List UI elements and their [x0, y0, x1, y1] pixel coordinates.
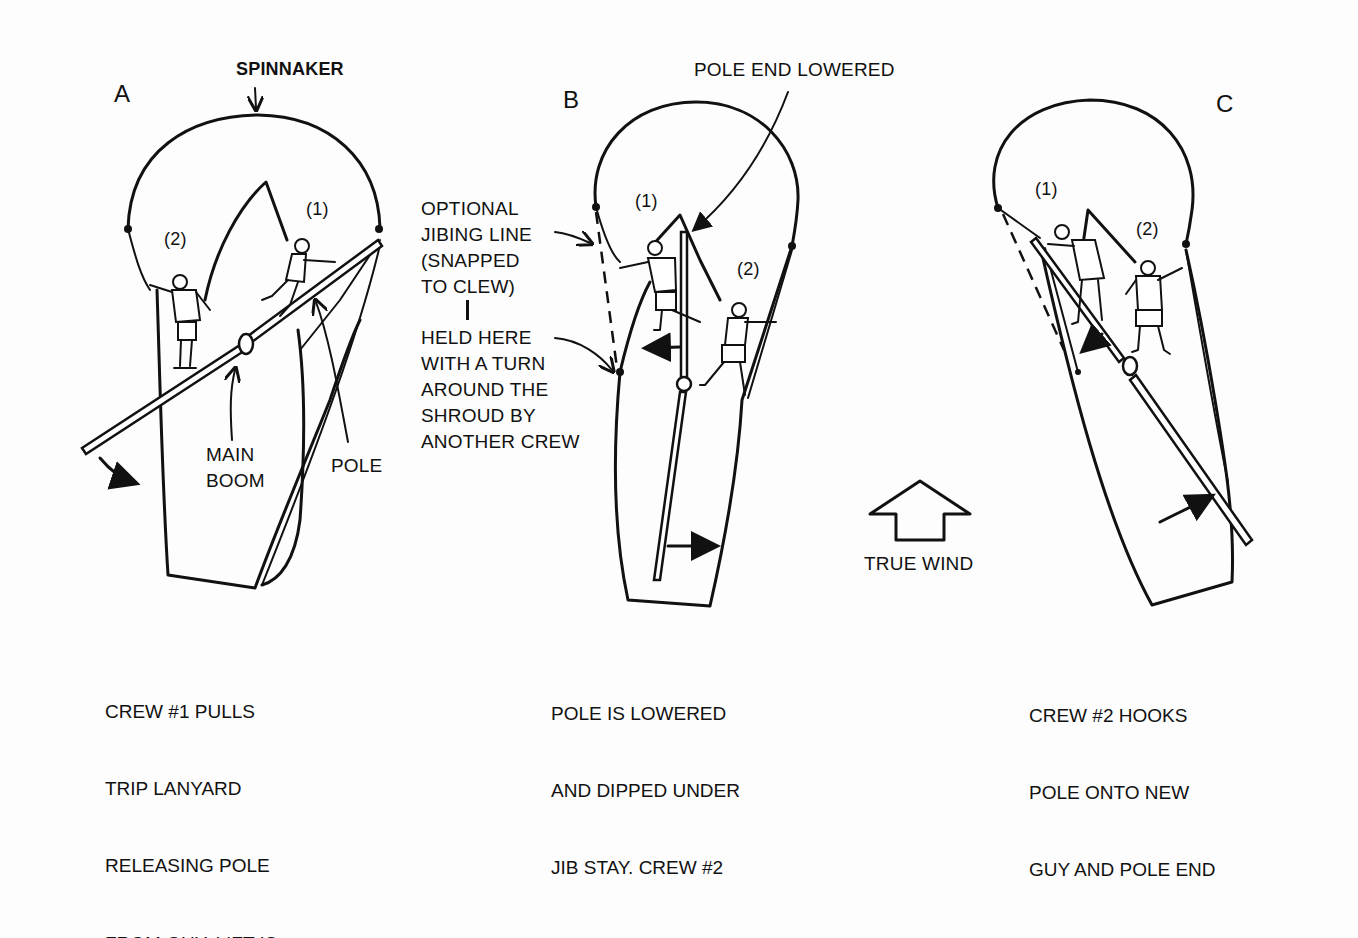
crew-1-marker-c: (1) — [1035, 176, 1058, 202]
crew-2-figure-b — [700, 303, 776, 395]
caption-line: TRIP LANYARD — [105, 776, 331, 802]
main-boom-label-line: MAIN — [206, 442, 265, 468]
spinnaker-a — [128, 115, 380, 229]
caption-line: CREW #2 HOOKS — [1029, 703, 1254, 729]
main-boom-label: MAIN BOOM — [206, 442, 265, 494]
panel-letter-c: C — [1216, 90, 1233, 118]
caption-line: FROM GUY. LIFT IS — [105, 931, 331, 938]
optional-jibing-line-label: OPTIONAL JIBING LINE (SNAPPED TO CLEW) — [421, 196, 532, 300]
crew-2-figure-c — [1126, 261, 1182, 354]
held-here-label-line: WITH A TURN — [421, 351, 580, 377]
jibing-line-label-line: JIBING LINE — [421, 222, 532, 248]
spinnaker-c — [994, 100, 1193, 244]
spinnaker-b — [595, 102, 798, 246]
jibing-line-label-line: (SNAPPED — [421, 248, 532, 274]
caption-c: CREW #2 HOOKS POLE ONTO NEW GUY AND POLE… — [1029, 651, 1254, 938]
caption-line: CROSSES TO BOAT'S — [551, 933, 814, 938]
crew-1-marker-b: (1) — [635, 188, 658, 214]
true-wind-arrow-icon — [870, 481, 970, 540]
crew-2-marker-c: (2) — [1136, 216, 1159, 242]
panel-c-drawing — [994, 100, 1252, 605]
caption-b: POLE IS LOWERED AND DIPPED UNDER JIB STA… — [551, 649, 814, 938]
crew-1-marker-a: (1) — [306, 196, 329, 222]
caption-line: POLE IS LOWERED — [551, 701, 814, 727]
hull-c — [1040, 245, 1233, 605]
crew-2-marker-b: (2) — [737, 256, 760, 282]
jibing-line-label-line: TO CLEW) — [421, 274, 532, 300]
caption-line: CREW #1 PULLS — [105, 699, 331, 725]
crew-2-marker-a: (2) — [164, 226, 187, 252]
held-here-label-line: HELD HERE — [421, 325, 580, 351]
caption-line: GUY AND POLE END — [1029, 857, 1254, 883]
jibing-line-label-line: OPTIONAL — [421, 196, 532, 222]
caption-a: CREW #1 PULLS TRIP LANYARD RELEASING POL… — [105, 647, 331, 938]
pole-label: POLE — [331, 453, 383, 479]
panel-letter-b: B — [563, 86, 579, 114]
caption-line: POLE ONTO NEW — [1029, 780, 1254, 806]
caption-line: RELEASING POLE — [105, 853, 331, 879]
held-here-label-line: AROUND THE — [421, 377, 580, 403]
caption-line: JIB STAY. CREW #2 — [551, 855, 814, 881]
true-wind-label: TRUE WIND — [864, 551, 973, 577]
held-here-label: HELD HERE WITH A TURN AROUND THE SHROUD … — [421, 325, 580, 455]
panel-a-drawing — [82, 88, 383, 588]
held-here-label-line: SHROUD BY — [421, 403, 580, 429]
held-here-label-line: ANOTHER CREW — [421, 429, 580, 455]
caption-line: AND DIPPED UNDER — [551, 778, 814, 804]
spinnaker-label: SPINNAKER — [236, 56, 344, 82]
connector-tick — [466, 300, 469, 320]
main-boom-label-line: BOOM — [206, 468, 265, 494]
panel-b-drawing — [555, 92, 798, 606]
panel-letter-a: A — [114, 80, 130, 108]
pole-end-lowered-label: POLE END LOWERED — [694, 57, 895, 83]
